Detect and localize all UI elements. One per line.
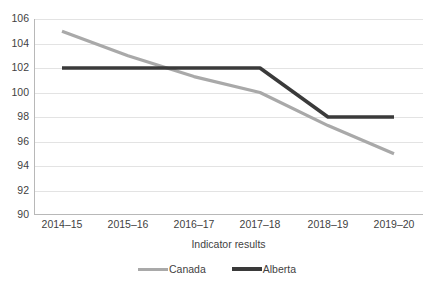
- legend-label-alberta: Alberta: [263, 263, 296, 275]
- legend-swatch-alberta: [232, 267, 262, 271]
- legend-item-alberta[interactable]: Alberta: [232, 263, 296, 275]
- chart-legend: Canada Alberta: [0, 263, 434, 275]
- series-line-alberta: [62, 68, 394, 117]
- legend-label-canada: Canada: [169, 263, 206, 275]
- legend-swatch-canada: [138, 268, 168, 271]
- line-chart: 1061041021009896949290 2014–152015–16201…: [0, 0, 434, 288]
- x-axis-title: Indicator results: [34, 238, 423, 250]
- series-line-canada: [62, 31, 394, 154]
- legend-item-canada[interactable]: Canada: [138, 263, 206, 275]
